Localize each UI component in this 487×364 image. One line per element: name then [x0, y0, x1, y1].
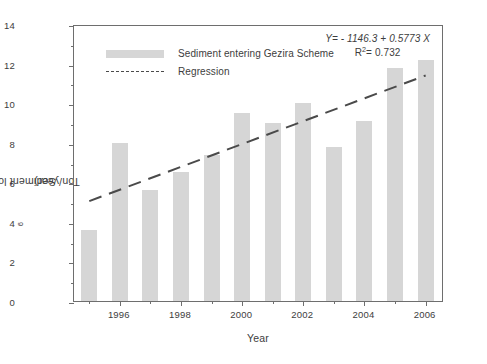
y-tick-label: 12	[4, 59, 15, 70]
y-tick-mark	[69, 66, 74, 67]
y-tick-mark-minor	[71, 125, 74, 126]
y-tick-mark	[69, 184, 74, 185]
x-tick-label: 1996	[108, 309, 130, 320]
x-tick-label: 2004	[353, 309, 375, 320]
dashed-line-swatch-icon	[104, 71, 166, 72]
x-tick-label: 2002	[291, 309, 313, 320]
bar-swatch-icon	[104, 50, 166, 58]
x-tick-mark-minor	[273, 301, 274, 304]
x-tick-label: 1998	[169, 309, 191, 320]
y-tick-label: 6	[10, 178, 15, 189]
x-tick-mark	[364, 301, 365, 306]
y-tick-label: 4	[10, 217, 15, 228]
y-tick-label: 0	[10, 297, 15, 308]
y-tick-label: 14	[4, 20, 15, 31]
r-squared-prefix: R	[355, 47, 362, 58]
y-tick-label: 2	[10, 257, 15, 268]
chart-figure: Sediment load (106 Ton/year) 02468101214…	[0, 0, 487, 364]
x-tick-label: 2000	[230, 309, 252, 320]
y-tick-mark	[69, 105, 74, 106]
y-tick-mark-minor	[71, 165, 74, 166]
legend-item-regression: Regression	[104, 64, 369, 79]
regression-equation: Y= - 1146.3 + 0.5773 X	[325, 33, 430, 44]
x-tick-mark	[426, 301, 427, 306]
x-tick-mark	[120, 301, 121, 306]
x-tick-mark	[242, 301, 243, 306]
r-squared-text: R2= 0.732	[325, 46, 430, 60]
y-tick-mark	[69, 303, 74, 304]
y-tick-label: 8	[10, 138, 15, 149]
regression-annotation: Y= - 1146.3 + 0.5773 X R2= 0.732	[325, 32, 430, 60]
x-tick-mark	[181, 301, 182, 306]
plot-frame: Sediment entering Gezira Scheme Regressi…	[73, 25, 443, 302]
x-tick-mark	[303, 301, 304, 306]
legend-label-sediment: Sediment entering Gezira Scheme	[178, 48, 334, 59]
r-squared-value: = 0.732	[366, 47, 400, 58]
y-tick-mark-minor	[71, 46, 74, 47]
y-tick-label: 10	[4, 99, 15, 110]
y-tick-mark	[69, 263, 74, 264]
y-tick-mark-minor	[71, 244, 74, 245]
x-tick-mark-minor	[395, 301, 396, 304]
x-tick-mark-minor	[89, 301, 90, 304]
y-axis-tick-labels: 02468101214	[0, 0, 73, 364]
x-tick-mark-minor	[212, 301, 213, 304]
x-tick-mark-minor	[334, 301, 335, 304]
y-tick-mark-minor	[71, 204, 74, 205]
y-tick-mark	[69, 145, 74, 146]
y-tick-mark-minor	[71, 85, 74, 86]
legend-label-regression: Regression	[178, 66, 230, 77]
x-tick-label: 2006	[414, 309, 436, 320]
y-tick-mark-minor	[71, 283, 74, 284]
y-tick-mark	[69, 224, 74, 225]
x-tick-mark-minor	[150, 301, 151, 304]
y-tick-mark	[69, 26, 74, 27]
x-axis-title: Year	[73, 332, 443, 344]
